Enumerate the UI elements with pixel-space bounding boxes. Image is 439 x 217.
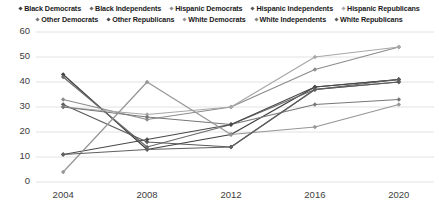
series-line bbox=[63, 80, 399, 155]
y-axis-tick-label: 20 bbox=[8, 126, 30, 136]
y-axis-tick-label: 50 bbox=[8, 51, 30, 61]
line-chart: Black DemocratsBlack IndependentsHispani… bbox=[0, 0, 439, 217]
series-line bbox=[63, 82, 399, 147]
x-axis-tick-label: 2004 bbox=[43, 190, 83, 200]
data-point-marker bbox=[229, 122, 233, 126]
y-axis-tick-label: 30 bbox=[8, 101, 30, 111]
data-point-marker bbox=[313, 67, 317, 71]
x-axis-tick-label: 2012 bbox=[211, 190, 251, 200]
y-axis-tick-label: 40 bbox=[8, 76, 30, 86]
x-axis-tick-label: 2020 bbox=[379, 190, 419, 200]
plot-area: 010203040506020042008201220162020 bbox=[0, 0, 439, 217]
x-axis-tick-label: 2008 bbox=[127, 190, 167, 200]
data-point-marker bbox=[397, 45, 401, 49]
y-axis-tick-label: 10 bbox=[8, 151, 30, 161]
data-point-marker bbox=[61, 152, 65, 156]
data-point-marker bbox=[313, 125, 317, 129]
data-point-marker bbox=[313, 102, 317, 106]
data-point-marker bbox=[397, 102, 401, 106]
x-axis-tick-label: 2016 bbox=[295, 190, 335, 200]
data-point-marker bbox=[397, 77, 401, 81]
y-axis-tick-label: 60 bbox=[8, 26, 30, 36]
data-point-marker bbox=[61, 97, 65, 101]
data-point-marker bbox=[397, 97, 401, 101]
series-line bbox=[63, 80, 399, 155]
y-axis-tick-label: 0 bbox=[8, 176, 30, 186]
plot-svg bbox=[0, 0, 439, 217]
